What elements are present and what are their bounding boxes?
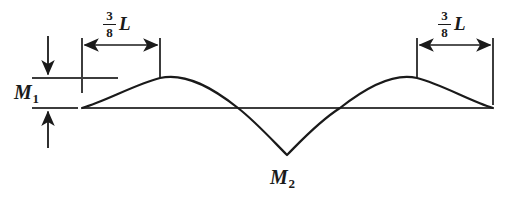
dimension-label-right: 3 8 L (438, 8, 466, 39)
fraction-numerator: 3 (105, 9, 114, 23)
moment-label-m2-symbol: M (270, 166, 288, 188)
moment-label-m1: M1 (14, 82, 39, 105)
fraction-denominator: 8 (440, 26, 449, 40)
moment-label-m2: M2 (270, 167, 295, 190)
moment-label-m1-subscript: 1 (32, 91, 39, 106)
fraction-three-eighths-right: 3 8 (438, 9, 451, 40)
dimension-label-left: 3 8 L (103, 8, 131, 39)
fraction-denominator: 8 (105, 26, 114, 40)
fraction-three-eighths-left: 3 8 (103, 9, 116, 40)
moment-label-m1-symbol: M (14, 81, 32, 103)
bending-moment-curve (82, 77, 493, 155)
dimension-unit-right: L (454, 14, 466, 33)
moment-diagram-figure: M1 M2 3 8 L 3 8 L (0, 0, 515, 198)
moment-label-m2-subscript: 2 (288, 176, 295, 191)
dimension-unit-left: L (119, 14, 131, 33)
fraction-numerator: 3 (440, 9, 449, 23)
